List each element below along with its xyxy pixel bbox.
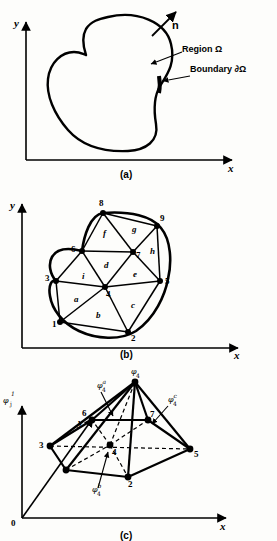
svg-text:1: 1 (11, 390, 15, 397)
phi-4-c-superscript: c (174, 392, 178, 399)
mesh-element-label-e: e (133, 269, 137, 279)
mesh-node-label-1: 1 (52, 319, 57, 329)
panel-b: y x 123456789 abcdefghi (b) (0, 178, 277, 360)
boundary-emphasis-mark (159, 76, 160, 93)
dashed-edge-4-7 (110, 420, 148, 445)
mesh-node-6[interactable] (79, 248, 85, 254)
mesh-edge-3-6 (56, 251, 82, 281)
panel-b-canvas: y x 123456789 abcdefghi (b) (0, 178, 277, 360)
mesh-node-label-3: 3 (45, 273, 50, 283)
phi-4-a-subscript: 4 (102, 386, 106, 393)
patch-node-label-3: 3 (39, 440, 44, 450)
mesh-node-label-5: 5 (165, 276, 170, 286)
mesh-element-label-a: a (74, 294, 79, 304)
mesh-element-label-b: b (96, 310, 101, 320)
mesh-node-label-4: 4 (106, 289, 111, 299)
boundary-label: Boundary ∂Ω (190, 64, 246, 74)
mesh-element-label-f: f (103, 228, 107, 238)
mesh-edge-6-7 (82, 251, 133, 252)
y-axis-label-a: y (12, 17, 19, 29)
mesh-node-1[interactable] (57, 319, 63, 325)
mesh-edge-4-5 (105, 281, 160, 287)
axes-c: x y 0 φ j 1 (3, 390, 226, 532)
panel-c: x y 0 φ j 1 (0, 360, 277, 541)
patch-node-label-6: 6 (82, 408, 87, 418)
svg-text:j: j (9, 400, 12, 408)
panel-c-canvas: x y 0 φ j 1 (0, 360, 277, 541)
mesh-node-label-8: 8 (99, 198, 104, 208)
phi-4-a: φ4a (97, 378, 107, 393)
panel-c-caption: (c) (120, 530, 132, 541)
y-axis-c (22, 418, 93, 518)
mesh-node-5[interactable] (157, 278, 163, 284)
patch-node-label-2: 2 (128, 479, 133, 489)
edge-apex-7 (135, 382, 148, 420)
x-axis-label-c: x (219, 520, 226, 532)
patch-node-label-4: 4 (112, 447, 117, 457)
y-axis-label-b: y (8, 199, 15, 211)
patch-node-5[interactable] (187, 446, 194, 453)
boundary-leader-line (163, 76, 190, 81)
mesh-edges (56, 213, 160, 332)
mesh-edge-9-5 (157, 226, 160, 281)
phi-4-c-subscript: 4 (173, 400, 177, 407)
phi-4-b-subscript: 4 (97, 490, 101, 497)
patch-node-6[interactable] (89, 417, 96, 424)
mesh-node-9[interactable] (154, 223, 160, 229)
panel-b-caption: (b) (120, 349, 133, 360)
patch-node-label-7: 7 (150, 409, 155, 419)
mesh-element-label-d: d (104, 260, 109, 270)
mesh-node-label-6: 6 (71, 244, 76, 254)
x-axis-label-b: x (233, 349, 240, 360)
mesh-element-label-h: h (150, 246, 155, 256)
phi-4-apex-subscript: 4 (136, 372, 140, 379)
panel-a-canvas: y x n Region Ω Boundary ∂Ω (a) (0, 0, 277, 180)
mesh-node-8[interactable] (100, 210, 106, 216)
mesh-node-3[interactable] (53, 278, 59, 284)
patch-node-3[interactable] (47, 443, 54, 450)
patch-node-1[interactable] (63, 467, 70, 474)
mesh-node-label-9: 9 (160, 213, 165, 223)
phi-4-b-superscript: b (98, 482, 102, 489)
figure-root: y x n Region Ω Boundary ∂Ω (a) (0, 0, 277, 541)
mesh-nodes (53, 210, 163, 335)
region-label: Region Ω (182, 44, 222, 54)
panel-a: y x n Region Ω Boundary ∂Ω (a) (0, 0, 277, 180)
dashed-edge-1-4 (66, 445, 110, 470)
phi-4-a-superscript: a (103, 378, 107, 385)
mesh-edge-3-4 (56, 281, 105, 287)
svg-text:φ: φ (3, 396, 9, 405)
mesh-edge-4-6 (82, 251, 105, 287)
edge-apex-5 (135, 382, 190, 449)
mesh-node-label-2: 2 (131, 333, 136, 343)
mesh-element-label-g: g (131, 224, 137, 234)
patch-node-apex[interactable] (132, 379, 139, 386)
phi-4-b: φ4b (92, 482, 102, 497)
mesh-node-label-7: 7 (136, 250, 141, 260)
phi-axis-label-c: φ j 1 (3, 390, 15, 408)
mesh-element-label-i: i (82, 271, 85, 281)
mesh-edge-4-7 (105, 252, 133, 287)
x-axis-label-a: x (227, 162, 234, 174)
phi-4-apex: φ4 (131, 367, 140, 379)
phi-4-c: φ4c (168, 392, 178, 407)
normal-vector-label: n (172, 19, 179, 31)
region-leader-line (151, 52, 182, 64)
origin-label-c: 0 (11, 518, 16, 528)
mesh-element-label-c: c (131, 300, 135, 310)
patch-node-label-5: 5 (194, 449, 199, 459)
